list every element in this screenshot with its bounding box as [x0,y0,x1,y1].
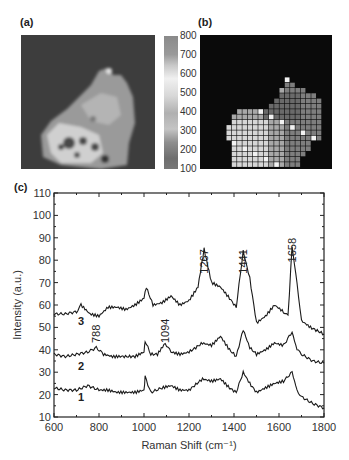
peak-annotation: 1094 [159,319,171,343]
y-tick-label: 20 [39,389,51,401]
series-label: 2 [78,360,84,372]
peak-annotation: 1441 [237,249,249,273]
y-tick-label: 70 [39,277,51,289]
x-tick-label: 1400 [222,421,246,433]
x-tick-label: 800 [90,421,108,433]
y-tick-label: 90 [39,232,51,244]
x-axis-label: Raman Shift (cm⁻¹) [141,439,236,451]
y-tick-label: 30 [39,366,51,378]
peak-annotation: 1658 [286,238,298,262]
y-tick-label: 100 [33,209,51,221]
y-tick-label: 80 [39,254,51,266]
y-tick-label: 110 [33,187,51,199]
x-tick-label: 1000 [132,421,156,433]
peak-annotation: 788 [90,325,102,343]
y-tick-label: 60 [39,299,51,311]
peak-annotation: 1267 [198,249,210,273]
y-tick-label: 40 [39,344,51,356]
y-axis-label: Intensity (a.u.) [11,270,23,340]
spectrum-line-1 [54,371,324,409]
x-tick-label: 1600 [267,421,291,433]
y-tick-label: 10 [39,411,51,423]
series-label: 1 [78,391,84,403]
series-label: 3 [78,315,84,327]
y-tick-label: 50 [39,321,51,333]
x-tick-label: 1800 [312,421,336,433]
raman-spectra-chart: 6008001000120014001600180010203040506070… [0,0,349,460]
x-tick-label: 1200 [177,421,201,433]
spectrum-line-3 [54,247,324,335]
